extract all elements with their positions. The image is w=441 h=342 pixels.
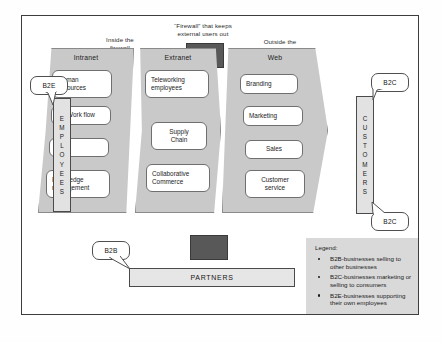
node-sales[interactable]: Sales bbox=[245, 140, 303, 159]
node-label-line2: Commerce bbox=[152, 178, 189, 186]
node-label-line1: Marketing bbox=[249, 112, 277, 120]
employees-letter: M bbox=[59, 123, 64, 132]
node-marketing[interactable]: Marketing bbox=[243, 106, 303, 126]
node-label-line2: employees bbox=[151, 84, 185, 92]
partners-label: PARTNERS bbox=[190, 274, 233, 281]
node-label-line2: Chain bbox=[169, 136, 189, 144]
node-label-line1: Supply bbox=[169, 128, 189, 136]
node-customer-service[interactable]: Customer service bbox=[245, 170, 305, 198]
legend-item-label: B2E-businesses supporting their own empl… bbox=[330, 292, 405, 307]
callout-b2c-top-tail bbox=[361, 88, 387, 102]
column-title-extranet: Extranet bbox=[136, 54, 220, 61]
customers-letter: U bbox=[363, 123, 368, 132]
employees-letter: O bbox=[59, 150, 64, 159]
employees-bar: EMPLOYEES bbox=[53, 98, 71, 212]
node-branding[interactable]: Branding bbox=[240, 74, 298, 94]
node-label-line1: Teleworking bbox=[151, 76, 185, 84]
caption-firewall: “Firewall” that keeps external users out bbox=[148, 22, 258, 38]
callout-b2b-label: B2B bbox=[104, 247, 117, 254]
legend-title: Legend: bbox=[315, 244, 337, 251]
bullet-icon bbox=[318, 276, 320, 278]
node-label-line1: Sales bbox=[266, 145, 282, 153]
caption-firewall-line2: external users out bbox=[148, 30, 258, 38]
caption-firewall-line1: “Firewall” that keeps bbox=[148, 22, 258, 30]
callout-b2c-bottom-tail bbox=[360, 200, 386, 216]
employees-letter: P bbox=[60, 132, 64, 141]
callout-b2c-bottom-label: B2C bbox=[383, 218, 396, 225]
employees-letter: E bbox=[60, 169, 64, 178]
partners-bar: PARTNERS bbox=[129, 268, 295, 287]
customers-letter: S bbox=[363, 132, 367, 141]
employees-letter: E bbox=[60, 178, 64, 187]
callout-b2e-label: B2E bbox=[42, 82, 55, 89]
customers-letter: O bbox=[362, 150, 367, 159]
bullet-icon bbox=[318, 258, 320, 260]
caption-outside-line1: Outside the bbox=[248, 38, 312, 46]
callout-b2b-tail bbox=[104, 256, 134, 272]
node-label-line1: Collaborative bbox=[152, 170, 189, 178]
firewall-block-bottom bbox=[190, 235, 228, 260]
node-teleworking-employees[interactable]: Teleworking employees bbox=[145, 70, 209, 98]
legend-item: B2C-businesses marketing or selling to c… bbox=[315, 273, 412, 288]
bullet-icon bbox=[318, 294, 320, 296]
node-collaborative-commerce[interactable]: Collaborative Commerce bbox=[146, 164, 210, 192]
legend-list: B2B-businesses selling to other business… bbox=[315, 255, 412, 310]
node-supply-chain[interactable]: Supply Chain bbox=[151, 122, 207, 150]
legend-item: B2B-businesses selling to other business… bbox=[315, 255, 412, 270]
column-title-web: Web bbox=[223, 54, 327, 61]
customers-letter: R bbox=[363, 178, 368, 187]
customers-letter: T bbox=[363, 141, 367, 150]
employees-letter: L bbox=[60, 141, 64, 150]
employees-letter: S bbox=[60, 187, 64, 196]
employees-letter: E bbox=[60, 114, 64, 123]
customers-letter: C bbox=[363, 114, 368, 123]
node-label-line2: service bbox=[261, 184, 289, 192]
diagram-canvas: Inside the firewall “Firewall” that keep… bbox=[0, 0, 441, 342]
node-label-line1: Customer bbox=[261, 176, 289, 184]
node-label-line1: Branding bbox=[246, 80, 272, 88]
column-title-intranet: Intranet bbox=[39, 54, 133, 61]
legend-item-label: B2C-businesses marketing or selling to c… bbox=[330, 273, 411, 288]
legend-item-label: B2B-businesses selling to other business… bbox=[330, 255, 401, 270]
customers-bar: CUSTOMERS bbox=[356, 96, 374, 214]
customers-letter: M bbox=[362, 160, 367, 169]
callout-b2c-top-label: B2C bbox=[383, 79, 396, 86]
legend-item: B2E-businesses supporting their own empl… bbox=[315, 292, 412, 307]
caption-inside-line1: Inside the bbox=[88, 36, 152, 44]
customers-letter: E bbox=[363, 169, 367, 178]
employees-letter: Y bbox=[60, 160, 64, 169]
customers-letter: S bbox=[363, 187, 367, 196]
legend-panel: Legend: B2B-businesses selling to other … bbox=[306, 238, 418, 314]
node-label-line1: Work flow bbox=[67, 111, 95, 119]
callout-b2e-tail bbox=[38, 91, 66, 107]
